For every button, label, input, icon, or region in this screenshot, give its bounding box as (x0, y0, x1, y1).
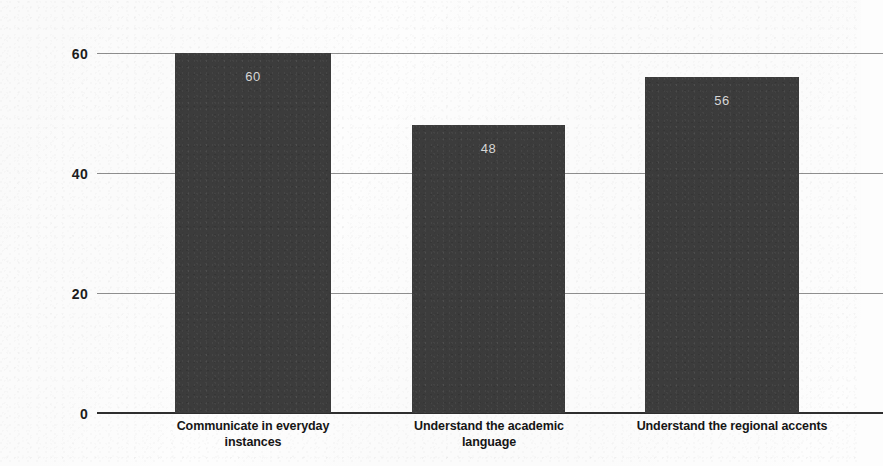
y-axis: 60 40 20 0 (40, 53, 88, 413)
category-label-understand-the-regional-accents: Understand the regional accents (607, 418, 857, 434)
category-label-line-1: Understand the academic (385, 418, 593, 434)
category-label-line-1: Understand the regional accents (607, 418, 857, 434)
category-label-line-2: language (385, 434, 593, 450)
bar-chart: 60 40 20 0 60 48 56 Communicate in every… (40, 16, 821, 450)
x-axis-category-labels: Communicate in everyday instances Unders… (97, 418, 883, 466)
y-tick-label-0: 0 (44, 407, 88, 421)
bars-layer: 60 48 56 (97, 53, 883, 413)
bar-value-label: 48 (412, 142, 565, 155)
y-tick-label-40: 40 (44, 167, 88, 181)
category-label-communicate-in-everyday-instances: Communicate in everyday instances (145, 418, 361, 450)
plot-area: 60 48 56 (97, 53, 883, 413)
category-label-line-2: instances (145, 434, 361, 450)
bar-understand-the-regional-accents[interactable]: 56 (645, 77, 799, 413)
category-label-understand-the-academic-language: Understand the academic language (385, 418, 593, 450)
category-label-line-1: Communicate in everyday (145, 418, 361, 434)
bar-value-label: 56 (645, 94, 799, 107)
y-tick-label-60: 60 (44, 47, 88, 61)
bar-communicate-in-everyday-instances[interactable]: 60 (175, 53, 331, 413)
y-tick-label-20: 20 (44, 287, 88, 301)
bar-understand-the-academic-language[interactable]: 48 (412, 125, 565, 413)
bar-value-label: 60 (175, 70, 331, 83)
